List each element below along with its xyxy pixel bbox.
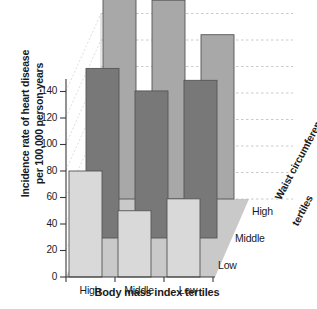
chart-canvas bbox=[0, 0, 317, 309]
chart-figure: Incidence rate of heart disease per 100,… bbox=[0, 0, 317, 309]
y-tick-label-40: 40 bbox=[31, 218, 57, 229]
bar-front-middle bbox=[118, 211, 151, 277]
y-axis bbox=[60, 79, 66, 277]
y-tick-label-120: 120 bbox=[31, 112, 57, 123]
y-tick-label-80: 80 bbox=[31, 165, 57, 176]
y-tick-label-140: 140 bbox=[31, 85, 57, 96]
x-axis-title: Body mass index tertiles bbox=[52, 286, 262, 298]
y-tick-label-0: 0 bbox=[31, 271, 57, 282]
z-tick-label-middle: Middle bbox=[235, 232, 265, 244]
y-tick-label-20: 20 bbox=[31, 244, 57, 255]
x-axis bbox=[66, 277, 215, 282]
y-tick-label-60: 60 bbox=[31, 191, 57, 202]
bar-front-high bbox=[69, 171, 102, 277]
plot-area: 140 120 100 80 60 40 20 0 High Middle Lo… bbox=[0, 0, 317, 309]
bar-front-low bbox=[167, 199, 200, 277]
y-tick-label-100: 100 bbox=[31, 138, 57, 149]
z-tick-label-low: Low bbox=[218, 259, 237, 271]
z-tick-label-high: High bbox=[252, 205, 273, 217]
